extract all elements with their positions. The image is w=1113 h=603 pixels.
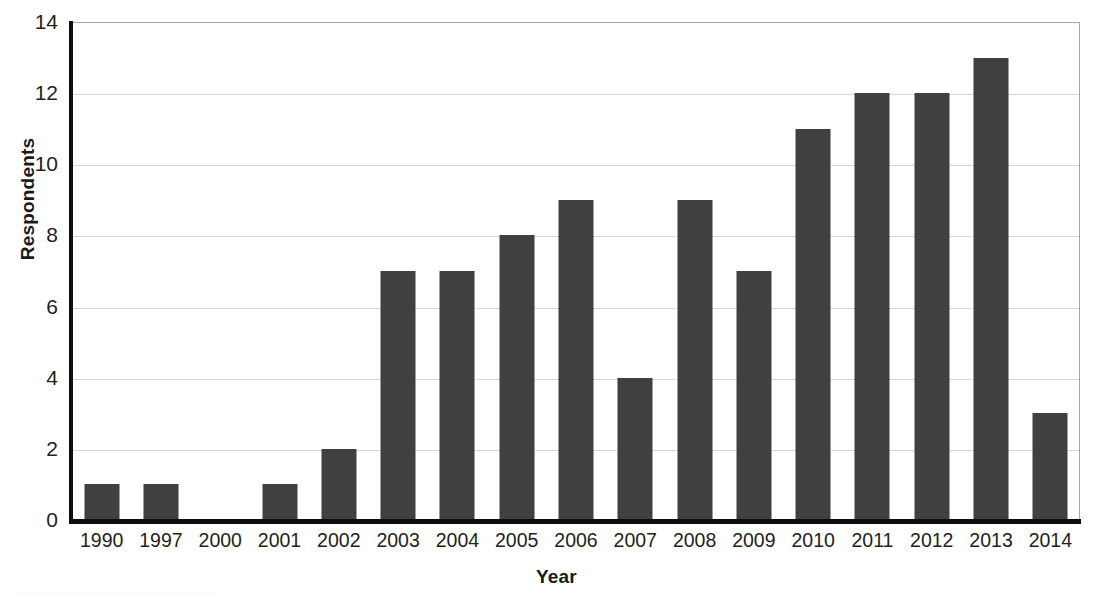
bar-slot [724,23,783,520]
bar-slot [428,23,487,520]
y-axis-tick-label: 12 [12,82,58,103]
bar-slot [131,23,190,520]
bar-slot [606,23,665,520]
bar [618,378,653,520]
bar-slot [546,23,605,520]
bar [440,271,475,520]
y-axis-line [69,21,73,523]
bar-chart: Respondents 02468101214 1990199720002001… [0,0,1113,603]
bar-slot [902,23,961,520]
y-axis-tick-label: 14 [12,11,58,32]
bar-slot [961,23,1020,520]
bar-slot [665,23,724,520]
y-axis-title: Respondents [17,119,39,279]
bar [84,484,119,520]
bar-slot [368,23,427,520]
bar-slot [1021,23,1080,520]
scan-artifact [16,592,216,597]
y-axis-tick-label: 0 [12,509,58,530]
x-axis-title: Year [0,566,1113,588]
y-axis-tick-label: 4 [12,367,58,388]
bar-slot [784,23,843,520]
bar [736,271,771,520]
bar [558,200,593,520]
bar [1033,413,1068,520]
bar [855,93,890,520]
bar [143,484,178,520]
x-axis-tick-label: 2014 [1015,531,1085,551]
bar-slot [250,23,309,520]
bar-slot [309,23,368,520]
bar [677,200,712,520]
bar [796,129,831,520]
plot-area [72,22,1080,520]
y-axis-tick-label: 2 [12,438,58,459]
bar [262,484,297,520]
y-axis-tick-label: 6 [12,296,58,317]
bar-slot [191,23,250,520]
bar [914,93,949,520]
bar [321,449,356,520]
bar [974,58,1009,520]
bar [381,271,416,520]
bar-slot [843,23,902,520]
bar-slot [72,23,131,520]
y-axis-tick-label: 10 [12,153,58,174]
y-axis-tick-label: 8 [12,224,58,245]
bar-slot [487,23,546,520]
bar [499,235,534,520]
x-axis-line [69,519,1081,524]
